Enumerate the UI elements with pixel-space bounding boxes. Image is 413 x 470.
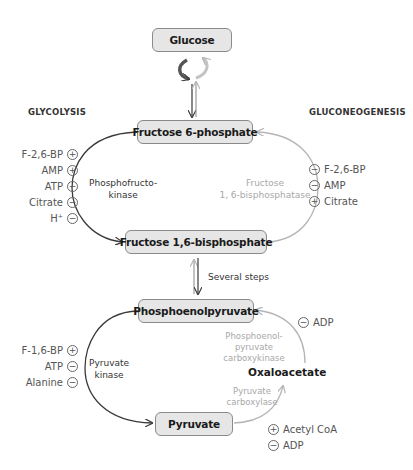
regulator-name: ADP bbox=[283, 440, 304, 451]
fructose-1-6-bisphosphate-box: Fructose 1,6-bisphosphate bbox=[125, 230, 267, 254]
fbpase-label-line2: 1, 6-bisphosphatase bbox=[216, 189, 314, 201]
inhibitor-minus-icon: − bbox=[67, 377, 78, 388]
regulator-name: ADP bbox=[313, 317, 334, 328]
pk-regulator: ATP− bbox=[45, 361, 78, 372]
activator-plus-icon: + bbox=[309, 196, 320, 207]
fructose-6-phosphate-box: Fructose 6-phosphate bbox=[137, 120, 253, 144]
pc-regulator: −ADP bbox=[268, 440, 304, 451]
pk-regulator: Alanine− bbox=[26, 377, 78, 388]
regulator-name: F-1,6-BP bbox=[22, 345, 63, 356]
pfk-regulator: F-2,6-BP+ bbox=[22, 149, 78, 160]
glycolysis-heading: GLYCOLYSIS bbox=[28, 107, 86, 117]
pc-label-line1: Pyruvate bbox=[224, 386, 280, 397]
gluconeogenesis-heading: GLUCONEOGENESIS bbox=[309, 107, 406, 117]
pk-label-line1: Pyruvate bbox=[89, 357, 129, 369]
several-steps-label: Several steps bbox=[208, 272, 269, 282]
activator-plus-icon: + bbox=[67, 165, 78, 176]
regulator-name: ATP bbox=[45, 361, 63, 372]
fbpase-regulator: +Citrate bbox=[309, 196, 358, 207]
regulator-name: Acetyl CoA bbox=[283, 424, 337, 435]
pepck-label-line3: carboxykinase bbox=[220, 353, 288, 364]
inhibitor-minus-icon: − bbox=[268, 440, 279, 451]
pfk-label-line1: Phosphofructo- bbox=[89, 177, 157, 189]
glucose-box: Glucose bbox=[152, 28, 232, 52]
regulator-name: F-2,6-BP bbox=[22, 149, 63, 160]
pc-label-line2: carboxylase bbox=[224, 397, 280, 408]
inhibitor-minus-icon: − bbox=[67, 197, 78, 208]
inhibitor-minus-icon: − bbox=[309, 180, 320, 191]
pepck-label-line2: pyruvate bbox=[220, 342, 288, 353]
pk-label-line2: kinase bbox=[89, 369, 129, 381]
phosphofructokinase-label: Phosphofructo- kinase bbox=[89, 177, 157, 201]
pepck-label-line1: Phosphoenol- bbox=[220, 331, 288, 342]
regulator-name: Alanine bbox=[26, 377, 63, 388]
regulator-name: ATP bbox=[45, 181, 63, 192]
regulator-name: Citrate bbox=[29, 197, 63, 208]
activator-plus-icon: + bbox=[268, 424, 279, 435]
pc-regulator: +Acetyl CoA bbox=[268, 424, 337, 435]
pk-regulator: F-1,6-BP+ bbox=[22, 345, 78, 356]
activator-plus-icon: + bbox=[67, 345, 78, 356]
glucose-cycle-dark-arrow bbox=[180, 60, 189, 79]
pyruvate-kinase-label: Pyruvate kinase bbox=[89, 357, 129, 381]
fbpase-regulator: −F-2,6-BP bbox=[309, 164, 365, 175]
glucose-cycle-grey-arrow bbox=[196, 58, 207, 78]
activator-plus-icon: + bbox=[67, 149, 78, 160]
pepck-regulator: −ADP bbox=[298, 317, 334, 328]
fructose-bisphosphatase-label: Fructose 1, 6-bisphosphatase bbox=[216, 177, 314, 201]
inhibitor-minus-icon: − bbox=[67, 213, 78, 224]
oxaloacetate-label: Oxaloacetate bbox=[248, 366, 326, 378]
pyruvate-carboxylase-label: Pyruvate carboxylase bbox=[224, 386, 280, 408]
inhibitor-minus-icon: − bbox=[309, 164, 320, 175]
pfk-label-line2: kinase bbox=[89, 189, 157, 201]
regulator-name: H⁺ bbox=[50, 213, 63, 224]
pyruvate-box: Pyruvate bbox=[155, 412, 233, 436]
regulator-name: Citrate bbox=[324, 196, 358, 207]
fbpase-label-line1: Fructose bbox=[216, 177, 314, 189]
inhibitor-minus-icon: − bbox=[298, 317, 309, 328]
regulator-name: AMP bbox=[42, 165, 64, 176]
pfk-regulator: H⁺− bbox=[50, 213, 78, 224]
regulator-name: F-2,6-BP bbox=[324, 164, 365, 175]
pfk-regulator: AMP+ bbox=[42, 165, 79, 176]
inhibitor-minus-icon: − bbox=[67, 181, 78, 192]
regulator-name: AMP bbox=[324, 180, 346, 191]
pfk-regulator: Citrate− bbox=[29, 197, 78, 208]
phosphoenolpyruvate-box: Phosphoenolpyruvate bbox=[138, 299, 254, 323]
fbpase-regulator: −AMP bbox=[309, 180, 346, 191]
pfk-regulator: ATP− bbox=[45, 181, 78, 192]
inhibitor-minus-icon: − bbox=[67, 361, 78, 372]
pep-carboxykinase-label: Phosphoenol- pyruvate carboxykinase bbox=[220, 331, 288, 364]
